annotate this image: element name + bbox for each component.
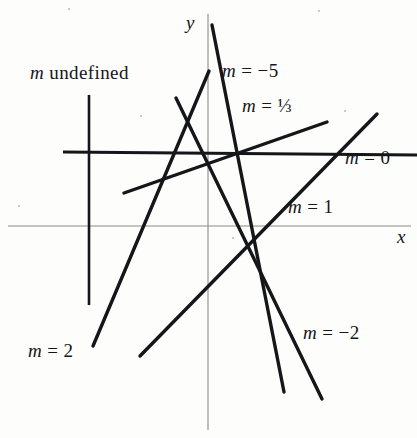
paper-speck — [68, 8, 70, 10]
paper-speck — [18, 205, 20, 207]
paper-speck — [140, 115, 142, 117]
slope-diagram-figure: y x m undefined m = −5 m = ⅓ m = 0 m = 1… — [0, 0, 417, 438]
label-m-undefined: m undefined — [30, 62, 129, 84]
x-axis-label: x — [397, 226, 405, 248]
line-m-one-third — [124, 122, 327, 193]
label-m-1: m = 1 — [288, 196, 333, 218]
label-m-one-third: m = ⅓ — [242, 95, 292, 117]
label-m-2: m = 2 — [28, 340, 73, 362]
label-m-neg-2: m = −2 — [303, 322, 360, 344]
line-m-neg-2 — [176, 98, 322, 399]
y-axis-label: y — [186, 12, 194, 34]
paper-speck — [232, 237, 234, 239]
paper-speck — [344, 110, 346, 112]
label-m-0: m = 0 — [345, 147, 390, 169]
paper-speck — [318, 10, 320, 12]
label-m-neg-5: m = −5 — [222, 60, 279, 82]
